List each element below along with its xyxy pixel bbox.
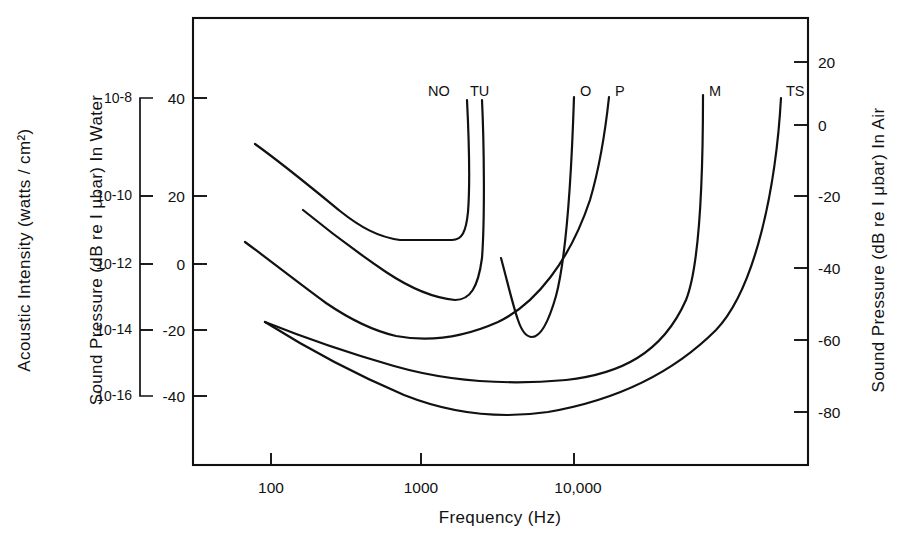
acoustic-threshold-figure: 100 1000 10,000 Frequency (Hz) 40 20 0 -… bbox=[0, 0, 913, 541]
left-axis-ticks bbox=[193, 98, 207, 396]
x-tick-label-1: 1000 bbox=[404, 479, 439, 496]
curve-label-P: P bbox=[615, 83, 625, 99]
curve-TU bbox=[303, 100, 484, 300]
y-right-tick-label-5: -80 bbox=[818, 404, 841, 421]
intensity-bracket-scale bbox=[140, 98, 153, 396]
x-axis-title: Frequency (Hz) bbox=[439, 508, 562, 527]
curve-label-TU: TU bbox=[470, 83, 489, 99]
x-tick-labels: 100 1000 10,000 bbox=[258, 479, 602, 496]
y-left-axis-title: Sound Pressure (dB re I μbar) In Water bbox=[87, 95, 106, 406]
chart-canvas: 100 1000 10,000 Frequency (Hz) 40 20 0 -… bbox=[0, 0, 913, 541]
y-right-tick-label-1: 0 bbox=[818, 117, 827, 134]
y-left-tick-label-2: 0 bbox=[176, 256, 185, 273]
left-tick-labels: 40 20 0 -20 -40 bbox=[163, 90, 186, 405]
y-right-tick-label-2: -20 bbox=[818, 188, 841, 205]
curve-label-M: M bbox=[709, 83, 721, 99]
curve-label-TS: TS bbox=[786, 83, 805, 99]
curve-NO bbox=[255, 100, 469, 240]
curve-label-NO: NO bbox=[428, 83, 450, 99]
right-axis-ticks bbox=[794, 62, 808, 412]
curve-O bbox=[501, 97, 574, 337]
intensity-tick-0: 10-8 bbox=[104, 89, 132, 106]
y-right-tick-label-0: 20 bbox=[818, 54, 836, 71]
y-left-tick-label-3: -20 bbox=[163, 322, 186, 339]
x-tick-label-2: 10,000 bbox=[554, 479, 602, 496]
intensity-axis-title: Acoustic Intensity (watts / cm²) bbox=[15, 128, 34, 371]
y-left-tick-label-4: -40 bbox=[163, 388, 186, 405]
y-right-tick-label-4: -60 bbox=[818, 332, 841, 349]
y-right-axis-title: Sound Pressure (dB re I μbar) In Air bbox=[869, 108, 888, 393]
curve-label-O: O bbox=[580, 83, 591, 99]
curve-labels: NO TU O P M TS bbox=[428, 83, 805, 99]
x-axis-ticks bbox=[271, 453, 574, 465]
y-left-tick-label-0: 40 bbox=[168, 90, 186, 107]
x-tick-label-0: 100 bbox=[258, 479, 284, 496]
curve-group bbox=[245, 95, 781, 415]
y-left-tick-label-1: 20 bbox=[168, 188, 186, 205]
right-tick-labels: 20 0 -20 -40 -60 -80 bbox=[818, 54, 841, 421]
y-right-tick-label-3: -40 bbox=[818, 260, 841, 277]
